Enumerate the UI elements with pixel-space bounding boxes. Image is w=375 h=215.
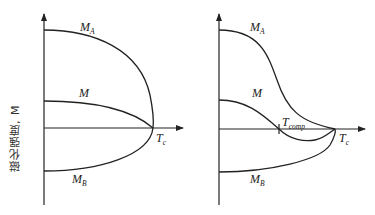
right-curve-MB: [219, 129, 335, 172]
right-label-Tc: Tc: [339, 131, 350, 147]
left-curve-M: [44, 101, 153, 128]
left-curve-MB: [44, 128, 153, 171]
left-label-Tc: Tc: [156, 131, 167, 147]
right-label-M: M: [251, 86, 263, 100]
magnetization-diagram: MA M MB Tc MA M MB Tcomp Tc: [0, 0, 375, 215]
left-panel: MA M MB Tc: [44, 14, 183, 205]
left-curve-MA: [44, 30, 153, 128]
left-label-M: M: [78, 86, 90, 100]
left-label-MA: MA: [79, 20, 95, 36]
left-label-MB: MB: [71, 172, 87, 188]
right-curve-M: [219, 100, 335, 141]
right-label-MB: MB: [249, 172, 265, 188]
right-panel: MA M MB Tcomp Tc: [219, 14, 365, 205]
right-label-MA: MA: [249, 20, 265, 36]
right-curve-MA: [219, 30, 335, 129]
